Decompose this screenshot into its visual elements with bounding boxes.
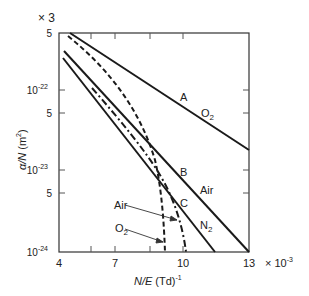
label-b: B — [180, 166, 187, 178]
plot-frame — [59, 33, 249, 252]
y-axis-title: α/N(m2) — [15, 129, 28, 170]
svg-text:13: 13 — [243, 257, 255, 269]
svg-text:5: 5 — [46, 188, 52, 199]
svg-text:5: 5 — [46, 108, 52, 119]
label-c: C — [180, 197, 188, 209]
svg-text:4: 4 — [56, 257, 62, 269]
svg-text:10-24: 10-24 — [27, 245, 48, 258]
svg-text:10: 10 — [177, 257, 189, 269]
x-tick-labels: 4 7 10 13 — [56, 257, 255, 269]
svg-text:10-22: 10-22 — [27, 83, 48, 96]
y-tick-labels: 5 10-22 5 10-23 5 10-24 — [27, 28, 53, 258]
series-lines — [63, 33, 249, 252]
x-multiplier: × 10-3 — [265, 256, 293, 269]
chart: A O2 B Air C N2 Air O2 4 7 10 13 × 10-3 … — [0, 0, 309, 296]
svg-text:7: 7 — [112, 257, 118, 269]
line-c-n2 — [63, 58, 215, 252]
label-a: A — [180, 91, 188, 103]
label-b-gas: Air — [200, 184, 214, 196]
svg-text:10-23: 10-23 — [27, 163, 48, 176]
label-o2-dashed: O2 — [115, 222, 129, 237]
y-top-multiplier: × 3 — [38, 11, 55, 25]
annotation-arrows — [125, 205, 177, 243]
svg-text:5: 5 — [46, 28, 52, 39]
label-air-dashdot: Air — [114, 199, 128, 211]
line-b-air — [64, 51, 249, 252]
x-axis-title: N/E(Td)-1 — [134, 274, 182, 287]
y-ticks — [59, 90, 249, 193]
curve-o2-dashed — [68, 36, 165, 252]
label-c-gas: N2 — [200, 219, 213, 234]
line-a-o2 — [70, 33, 249, 150]
